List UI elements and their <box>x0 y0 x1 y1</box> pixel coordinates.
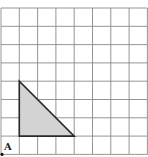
shaded-right-triangle <box>19 81 74 136</box>
point-a-marker <box>0 153 3 156</box>
point-a-label: A <box>4 141 12 152</box>
grid-diagram <box>0 0 148 157</box>
